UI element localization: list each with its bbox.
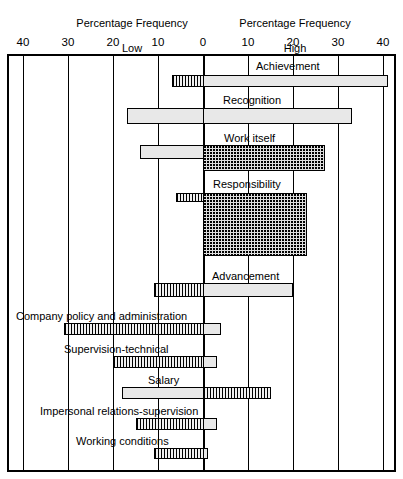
- bar-high: [203, 418, 217, 430]
- bar-high: [203, 323, 221, 335]
- x-tick-label: 30: [323, 36, 353, 48]
- bar-low: [140, 145, 204, 159]
- bar-label: Work itself: [224, 132, 275, 145]
- x-tick-label: 40: [8, 36, 38, 48]
- bar-high: [203, 193, 307, 256]
- bar-low: [113, 356, 204, 368]
- x-tick-label: 30: [53, 36, 83, 48]
- x-tick-label: 10: [143, 36, 173, 48]
- bar-label: Working conditions: [76, 435, 169, 448]
- axis-title-high-line1: Percentage Frequency: [215, 17, 375, 30]
- bar-high: [203, 356, 217, 368]
- bar-high: [203, 448, 208, 459]
- bar-low: [64, 323, 205, 335]
- bar-low: [122, 387, 204, 399]
- bar-label: Achievement: [256, 60, 320, 73]
- gridline: [23, 56, 24, 470]
- bar-low: [176, 193, 204, 202]
- x-tick-label: 20: [98, 36, 128, 48]
- x-tick-label: 20: [278, 36, 308, 48]
- bar-high: [203, 283, 293, 297]
- chart-container: Percentage Frequency Low Percentage Freq…: [0, 0, 403, 479]
- bar-low: [154, 448, 205, 459]
- x-axis-tick-labels: 40302010010203040: [0, 36, 403, 51]
- bar-label: Supervision-technical: [64, 343, 169, 356]
- bar-high: [203, 387, 271, 399]
- bar-label: Impersonal relations-supervision: [40, 405, 198, 418]
- axis-title-low-line1: Percentage Frequency: [52, 17, 212, 30]
- bar-label: Recognition: [223, 94, 281, 107]
- x-tick-label: 10: [233, 36, 263, 48]
- x-tick-label: 0: [188, 36, 218, 48]
- bar-low: [154, 283, 205, 297]
- bar-high: [203, 75, 388, 87]
- bar-low: [127, 108, 205, 124]
- bar-low: [136, 418, 205, 430]
- bar-high: [203, 108, 352, 124]
- bar-label: Advancement: [212, 270, 279, 283]
- bar-label: Responsibility: [213, 178, 281, 191]
- bar-high: [203, 145, 325, 171]
- bar-label: Salary: [148, 374, 179, 387]
- bar-label: Company policy and administration: [16, 310, 187, 323]
- gridline: [383, 56, 384, 470]
- bar-low: [172, 75, 205, 87]
- x-tick-label: 40: [368, 36, 398, 48]
